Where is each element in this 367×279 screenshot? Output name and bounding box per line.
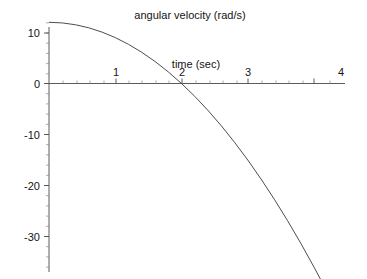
chart-figure: 10 0 -10 -20 -30 1 2 3 4 angular velocit…: [0, 0, 367, 279]
y-tick-label-0: 0: [34, 78, 40, 90]
x-tick-label-3: 3: [245, 66, 251, 78]
x-tick-label-4: 4: [338, 66, 344, 78]
y-tick-label-minus20: -20: [24, 180, 40, 192]
y-tick-label-10: 10: [28, 27, 40, 39]
x-tick-label-1: 1: [113, 66, 119, 78]
x-axis-label: time (sec): [172, 58, 220, 70]
plot-title: angular velocity (rad/s): [134, 9, 245, 21]
angular-velocity-plot: 10 0 -10 -20 -30 1 2 3 4 angular velocit…: [0, 0, 367, 279]
y-tick-label-minus10: -10: [24, 129, 40, 141]
x-axis-major-ticks: [116, 79, 314, 84]
y-tick-label-minus30: -30: [24, 231, 40, 243]
